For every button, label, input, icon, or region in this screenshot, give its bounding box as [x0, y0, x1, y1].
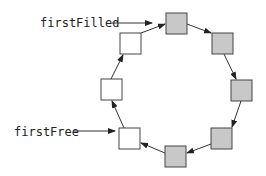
arrow-bottom-to-bottom-left: [141, 143, 165, 153]
slot-left-empty: [101, 79, 122, 100]
slot-bottom-right-filled: [211, 128, 232, 149]
slot-bottom-left-empty: [119, 128, 140, 149]
arrow-bottom-left-to-left: [112, 101, 124, 128]
slot-bottom-filled: [165, 146, 186, 167]
first-free-label: firstFree: [14, 125, 79, 139]
slot-top-right-filled: [212, 33, 233, 54]
first-filled-label: firstFilled: [40, 16, 119, 30]
arrow-top-right-to-right: [224, 54, 236, 79]
arrow-left-to-top-left: [111, 55, 123, 79]
arrow-bottom-right-to-bottom: [187, 144, 211, 153]
pointer-first-free: firstFree: [14, 125, 115, 139]
pointer-first-filled: firstFilled: [40, 16, 152, 30]
diagram-canvas: firstFilled firstFree: [0, 0, 266, 176]
slot-top-filled: [166, 13, 187, 34]
arrow-right-to-bottom-right: [232, 101, 241, 127]
arrow-top-to-top-right: [187, 24, 211, 33]
circular-buffer-diagram: firstFilled firstFree: [0, 0, 266, 176]
slot-right-filled: [231, 80, 252, 101]
slot-top-left-empty: [120, 33, 141, 54]
arrow-top-left-to-top: [141, 24, 165, 33]
buffer-slots: [101, 13, 252, 167]
